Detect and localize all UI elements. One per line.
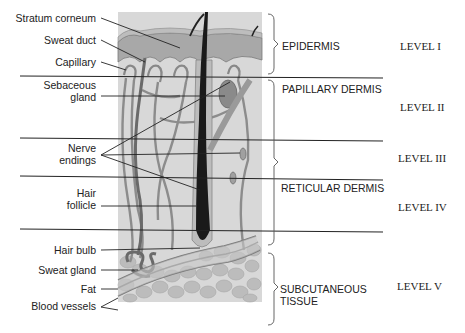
label-line: endings xyxy=(59,154,96,166)
label-nerve-endings: Nerve endings xyxy=(59,142,96,166)
layer-epidermis: EPIDERMIS xyxy=(282,40,340,52)
label-sebaceous-gland: Sebaceous gland xyxy=(43,79,96,103)
label-sweat-duct: Sweat duct xyxy=(44,34,96,46)
layer-reticular-dermis: RETICULAR DERMIS xyxy=(281,182,384,194)
label-line: Hair xyxy=(67,187,96,199)
label-hair-bulb: Hair bulb xyxy=(54,244,96,256)
level-5: LEVEL V xyxy=(397,280,442,292)
layer-line: TISSUE xyxy=(280,295,367,307)
label-line: Nerve xyxy=(59,142,96,154)
brace-epidermis xyxy=(268,14,278,74)
label-stratum-corneum: Stratum corneum xyxy=(15,12,96,24)
label-blood-vessels: Blood vessels xyxy=(31,300,96,312)
label-fat: Fat xyxy=(81,283,96,295)
label-line: gland xyxy=(43,91,96,103)
level-1: LEVEL I xyxy=(400,40,441,52)
level-2: LEVEL II xyxy=(400,101,445,113)
skin-diagram: Stratum corneum Sweat duct Capillary Seb… xyxy=(0,0,465,333)
brace-subcutaneous xyxy=(268,253,278,325)
level-3: LEVEL III xyxy=(398,152,446,164)
layer-braces xyxy=(268,14,278,325)
skin-illustration xyxy=(0,0,465,333)
label-line: Sebaceous xyxy=(43,79,96,91)
nerve-ending xyxy=(240,148,246,160)
label-capillary: Capillary xyxy=(55,56,96,68)
label-sweat-gland: Sweat gland xyxy=(38,264,96,276)
label-hair-follicle: Hair follicle xyxy=(67,187,96,211)
layer-papillary-dermis: PAPILLARY DERMIS xyxy=(282,83,382,95)
level-4: LEVEL IV xyxy=(398,201,447,213)
label-line: follicle xyxy=(67,199,96,211)
layer-subcutaneous-tissue: SUBCUTANEOUS TISSUE xyxy=(280,283,367,307)
brace-dermis xyxy=(268,80,278,245)
layer-line: SUBCUTANEOUS xyxy=(280,283,367,295)
